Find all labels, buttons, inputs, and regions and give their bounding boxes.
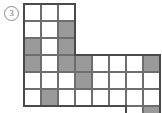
outline-left [125,105,127,113]
grid-cell[interactable] [58,21,75,38]
polyomino-grid [24,4,160,110]
grid-cell[interactable] [109,72,126,89]
grid-cell[interactable] [109,55,126,72]
grid-cell[interactable] [92,55,109,72]
grid-cell[interactable] [75,72,92,89]
grid-cell[interactable] [143,89,160,106]
outline-right [159,71,161,90]
grid-cell[interactable] [41,55,58,72]
grid-cell[interactable] [41,38,58,55]
grid-cell[interactable] [58,38,75,55]
grid-cell[interactable] [24,55,41,72]
grid-cell[interactable] [126,89,143,106]
outline-top [142,54,161,56]
grid-cell[interactable] [24,72,41,89]
grid-cell[interactable] [92,72,109,89]
outline-bottom [91,105,110,107]
grid-cell[interactable] [126,55,143,72]
outline-bottom [57,105,76,107]
outline-bottom [40,105,59,107]
outline-left [23,88,25,107]
outline-right [74,3,76,22]
grid-cell[interactable] [24,89,41,106]
grid-cell[interactable] [109,89,126,106]
outline-top [91,54,110,56]
outline-left [23,3,25,22]
grid-cell[interactable] [58,4,75,21]
grid-cell[interactable] [75,55,92,72]
outline-top [57,3,76,5]
grid-cell[interactable] [75,89,92,106]
grid-cell[interactable] [24,38,41,55]
outline-right [159,88,161,107]
outline-right [159,105,161,113]
outline-top [74,54,93,56]
grid-cell[interactable] [58,89,75,106]
grid-cell[interactable] [126,72,143,89]
grid-cell[interactable] [41,72,58,89]
grid-cell[interactable] [41,89,58,106]
puzzle-figure: 3 [0,0,162,113]
outline-right [74,37,76,56]
grid-cell[interactable] [143,72,160,89]
outline-bottom [23,105,42,107]
grid-cell[interactable] [92,89,109,106]
outline-top [125,54,144,56]
outline-left [23,20,25,39]
circled-figure-number: 3 [4,6,19,21]
outline-top [23,3,42,5]
outline-bottom [74,105,93,107]
grid-cell[interactable] [143,55,160,72]
outline-right [74,20,76,39]
outline-bottom [108,105,127,107]
grid-cell[interactable] [24,4,41,21]
outline-top [40,3,59,5]
grid-cell[interactable] [41,4,58,21]
grid-cell[interactable] [58,55,75,72]
grid-cell[interactable] [58,72,75,89]
outline-right [159,54,161,73]
grid-cell[interactable] [41,21,58,38]
grid-cell[interactable] [126,106,143,113]
outline-left [23,71,25,90]
outline-top [108,54,127,56]
grid-cell[interactable] [24,21,41,38]
grid-cell[interactable] [143,106,160,113]
outline-left [23,54,25,73]
outline-left [23,37,25,56]
